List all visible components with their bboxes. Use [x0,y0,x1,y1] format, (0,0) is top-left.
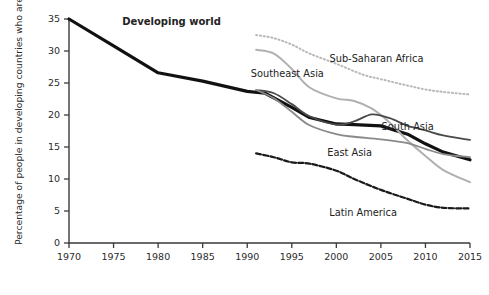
series-label-east-asia: East Asia [327,147,372,158]
x-axis-ticks: 1970197519801985199019952000200520102015 [57,243,482,262]
x-tick-label: 1995 [280,251,304,262]
series-label-latin-america: Latin America [329,207,397,218]
x-tick-label: 2015 [458,251,482,262]
undernourishment-line-chart: Percentage of people in developing count… [0,0,489,295]
x-tick-label: 1990 [235,251,259,262]
x-tick-label: 2000 [324,251,348,262]
y-axis-title: Percentage of people in developing count… [13,0,24,245]
series-label-south-asia: South Asia [382,121,434,132]
series-line-south-asia [256,90,470,140]
series-label-sub-saharan-africa: Sub-Saharan Africa [329,53,423,64]
y-tick-label: 20 [48,109,60,120]
x-tick-label: 1985 [191,251,215,262]
x-tick-label: 1970 [57,251,81,262]
y-axis-label: Percentage of people in developing count… [13,0,24,245]
chart-series [69,19,470,208]
y-tick-label: 0 [54,237,60,248]
series-line-developing-world [69,19,470,160]
y-axis-ticks: 05101520253035 [48,13,69,248]
series-label-developing-world: Developing world [122,16,221,27]
y-tick-label: 10 [48,173,60,184]
x-tick-label: 2010 [413,251,437,262]
x-tick-label: 1975 [101,251,125,262]
chart-canvas: Percentage of people in developing count… [0,0,489,295]
x-tick-label: 1980 [146,251,170,262]
y-tick-label: 5 [54,205,60,216]
y-tick-label: 25 [48,77,60,88]
x-tick-label: 2005 [369,251,393,262]
series-label-southeast-asia: Southeast Asia [251,68,324,79]
series-line-latin-america [256,153,470,208]
y-tick-label: 15 [48,141,60,152]
y-tick-label: 35 [48,13,60,24]
y-tick-label: 30 [48,45,60,56]
